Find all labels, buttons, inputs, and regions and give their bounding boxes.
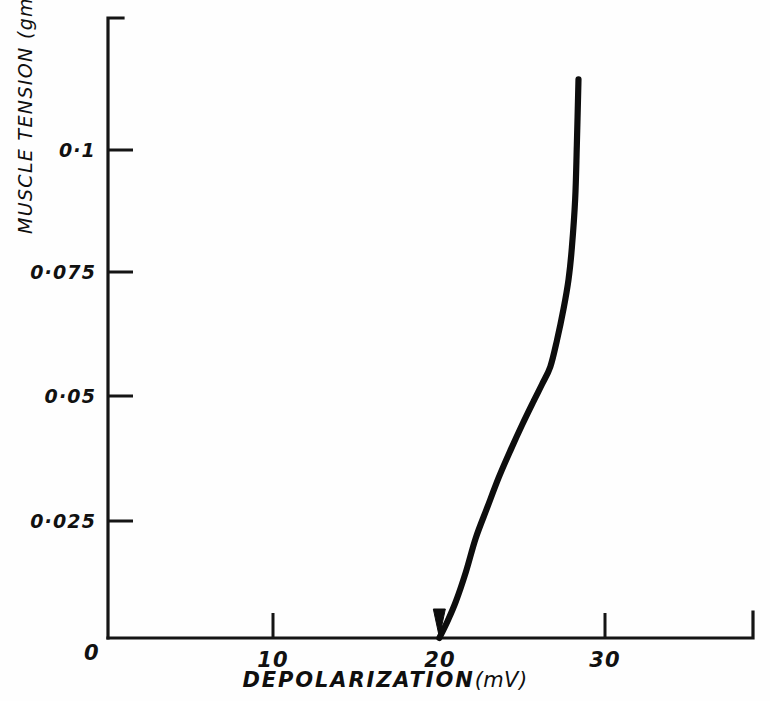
y-tick-label-0p075: 0·075 — [0, 261, 96, 283]
y-axis-line — [108, 18, 123, 638]
x-axis-title-unit: (mV) — [475, 668, 528, 692]
x-axis-title: DEPOLARIZATION(mV) — [0, 668, 770, 692]
y-axis-title: MUSCLE TENSION (gm.) — [14, 200, 36, 234]
plot-area — [0, 0, 770, 701]
chart-figure: 0 10 20 30 0·1 0·075 0·05 0·025 MUSCLE T… — [0, 0, 770, 701]
y-tick-label-0p05: 0·05 — [0, 385, 96, 407]
tension-curve — [439, 79, 578, 638]
x-axis-line — [108, 612, 753, 638]
origin-label: 0 — [84, 641, 99, 665]
y-tick-label-0p025: 0·025 — [0, 510, 96, 532]
x-axis-title-main: DEPOLARIZATION — [242, 668, 474, 692]
y-axis-ticks — [108, 150, 133, 521]
